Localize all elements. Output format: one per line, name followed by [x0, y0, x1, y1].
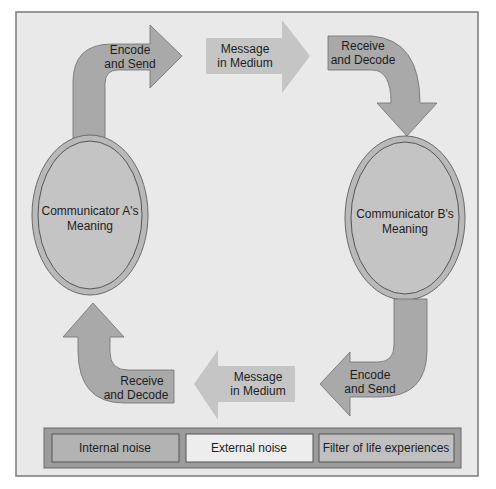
communicator-b-label-line2: Meaning: [382, 222, 428, 236]
arrow-label-line1: Encode: [350, 368, 391, 382]
legend-filter-label: Filter of life experiences: [323, 441, 450, 455]
arrow-label-line2: and Decode: [331, 53, 396, 67]
communicator-a-node: Communicator A's Meaning: [32, 135, 148, 295]
arrow-label-line1: Receive: [341, 39, 385, 53]
arrow-label-line2: and Send: [344, 382, 395, 396]
communicator-b-label-line1: Communicator B's: [356, 207, 454, 221]
arrow-label-line2: in Medium: [217, 56, 272, 70]
legend-internal-noise-label: Internal noise: [79, 441, 151, 455]
noise-legend: Internal noise External noise Filter of …: [44, 428, 461, 468]
arrow-label-line1: Receive: [120, 374, 164, 388]
communication-model-diagram: Encode and Send Message in Medium Receiv…: [0, 0, 496, 489]
arrow-label-line2: in Medium: [230, 384, 285, 398]
communicator-a-label-line2: Meaning: [67, 219, 113, 233]
arrow-label-line1: Encode: [110, 43, 151, 57]
legend-external-noise-label: External noise: [211, 441, 287, 455]
arrow-label-line1: Message: [221, 42, 270, 56]
arrow-label-line1: Message: [234, 370, 283, 384]
communicator-a-label-line1: Communicator A's: [42, 204, 139, 218]
communicator-b-node: Communicator B's Meaning: [345, 136, 465, 300]
arrow-label-line2: and Decode: [104, 388, 169, 402]
arrow-label-line2: and Send: [104, 57, 155, 71]
